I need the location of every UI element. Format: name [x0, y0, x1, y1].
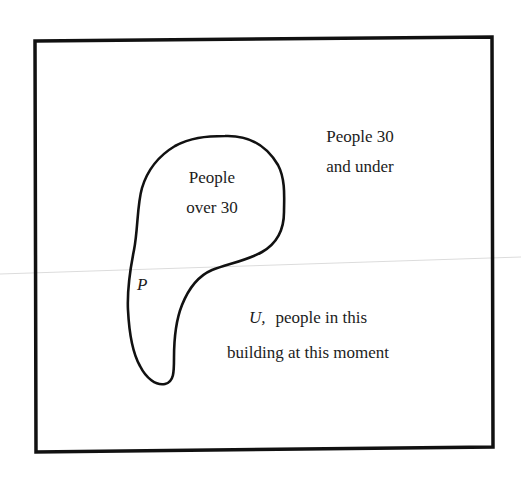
subset-label-line-2: over 30 — [168, 193, 256, 223]
universe-label: U,people in this building at this moment — [188, 300, 428, 370]
universe-symbol: U, — [249, 308, 266, 327]
universe-label-line-2: building at this moment — [188, 335, 428, 370]
complement-label-line-1: People 30 — [305, 122, 415, 152]
subset-label-line-1: People — [168, 163, 256, 193]
universe-label-text-1: people in this — [275, 308, 367, 327]
universe-rectangle — [35, 37, 493, 452]
venn-diagram-canvas — [0, 0, 521, 477]
complement-label-line-2: and under — [305, 152, 415, 182]
universe-label-line-1: U,people in this — [188, 300, 428, 335]
complement-label: People 30 and under — [305, 122, 415, 182]
subset-symbol: P — [137, 270, 147, 300]
scan-line-artifact — [0, 257, 521, 274]
subset-label: People over 30 — [168, 163, 256, 223]
